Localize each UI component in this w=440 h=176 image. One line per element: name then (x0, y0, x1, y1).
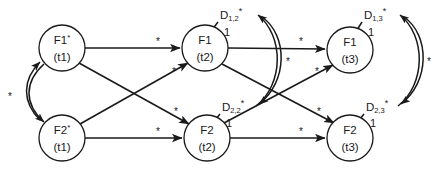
star-label-f2t1-f1t2: * (172, 66, 176, 77)
d12-sub: 1,2 (228, 14, 238, 23)
d22-base: D (222, 101, 230, 113)
star-label-f1t1-f2t2: * (174, 106, 178, 117)
star-label-f2t1-f2t2: * (156, 126, 160, 137)
diagram-canvas: F1* (t1) F1 (t2) F1 (t3) F2* (t1) (0, 0, 440, 176)
star-label-f2t2-f2t3: * (299, 126, 303, 137)
node-f2-t3[interactable]: F2 (t3) (327, 115, 373, 161)
edge-d13-d23-curve (398, 15, 423, 106)
node-f2-t1-name: F2 (54, 124, 67, 136)
node-f2-t2-time: (t2) (198, 141, 215, 153)
d13-base: D (364, 9, 372, 21)
svg-text:D2,3*: D2,3* (366, 98, 389, 115)
star-label-f1t1-f1t2: * (156, 36, 160, 47)
node-circle (39, 25, 85, 71)
node-f1-t1-marker: * (67, 33, 70, 42)
node-f2-t2[interactable]: F2 (t2) (184, 115, 230, 161)
star-label-d13-d23: * (427, 56, 431, 67)
svg-text:D1,3*: D1,3* (364, 6, 387, 23)
edge-f1t1-f2t1-curve (27, 62, 45, 122)
svg-text:F2: F2 (200, 124, 213, 136)
node-circle (39, 115, 85, 161)
d23-base: D (366, 101, 374, 113)
d22-sub: 2,2 (230, 106, 240, 115)
node-f1-t1-name: F1 (54, 34, 67, 46)
node-f1-t3-name: F1 (343, 36, 356, 48)
weight-label-d23: 1 (370, 117, 376, 129)
star-label-f2t2-f1t3: * (315, 66, 319, 77)
star-label-f1t2-f2t3: * (317, 106, 321, 117)
node-f2-t1-marker: * (67, 123, 70, 132)
svg-text:F1: F1 (198, 34, 211, 46)
weight-label-d12: 1 (224, 26, 230, 38)
d12-sup: * (239, 6, 243, 16)
disturbance-label-d12: D1,2* (220, 6, 243, 23)
d22-sup: * (241, 98, 245, 108)
svg-text:F2: F2 (343, 124, 356, 136)
d23-sub: 2,3 (374, 106, 384, 115)
disturbance-label-d22: D2,2* (222, 98, 245, 115)
node-f1-t2[interactable]: F1 (t2) (182, 25, 228, 71)
node-f1-t1[interactable]: F1* (t1) (39, 25, 85, 71)
node-f1-t3[interactable]: F1 (t3) (327, 27, 373, 73)
node-circle (184, 115, 230, 161)
star-label-left-pair: * (8, 91, 12, 102)
node-f2-t3-time: (t3) (341, 141, 358, 153)
node-f2-t1-time: (t1) (53, 141, 70, 153)
svg-text:D2,2*: D2,2* (222, 98, 245, 115)
node-circle (327, 115, 373, 161)
node-f2-t3-name: F2 (343, 124, 356, 136)
svg-text:F1: F1 (343, 36, 356, 48)
diagram-svg: F1* (t1) F1 (t2) F1 (t3) F2* (t1) (0, 0, 440, 176)
weight-label-d22: 1 (226, 117, 232, 129)
node-circle (327, 27, 373, 73)
node-f1-t3-time: (t3) (341, 53, 358, 65)
star-label-d12-d22: * (286, 56, 290, 67)
svg-text:D1,2*: D1,2* (220, 6, 243, 23)
star-label-f1t2-f1t3: * (299, 36, 303, 47)
disturbance-label-d13: D1,3* (364, 6, 387, 23)
node-f1-t2-time: (t2) (196, 51, 213, 63)
disturbance-label-d23: D2,3* (366, 98, 389, 115)
d13-sub: 1,3 (372, 14, 382, 23)
d23-sup: * (385, 98, 389, 108)
node-f2-t1[interactable]: F2* (t1) (39, 115, 85, 161)
node-f1-t1-time: (t1) (53, 51, 70, 63)
d13-sup: * (383, 6, 387, 16)
weight-label-d13: 1 (368, 26, 374, 38)
d12-base: D (220, 9, 228, 21)
node-f2-t2-name: F2 (200, 124, 213, 136)
node-f1-t2-name: F1 (198, 34, 211, 46)
node-circle (182, 25, 228, 71)
